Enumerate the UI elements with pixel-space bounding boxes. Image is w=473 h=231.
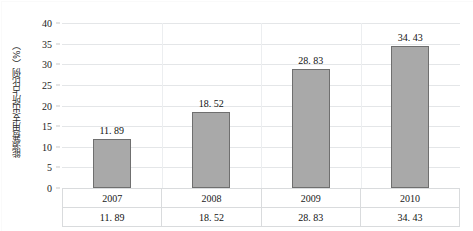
category-separator bbox=[261, 23, 262, 188]
table-cell: 28. 83 bbox=[261, 208, 360, 227]
y-axis-tick-label: 30 bbox=[42, 59, 52, 70]
table-cell: 2009 bbox=[261, 189, 360, 208]
category-separator bbox=[361, 23, 362, 188]
table-row-values: 11. 8918. 5228. 8334. 43 bbox=[63, 208, 460, 227]
y-axis-tick-mark bbox=[56, 126, 60, 127]
table-cell: 2007 bbox=[63, 189, 162, 208]
y-axis-tick-mark bbox=[56, 188, 60, 189]
table-cell: 34. 43 bbox=[360, 208, 459, 227]
bar-value-label: 28. 83 bbox=[298, 55, 323, 66]
table-cell: 2010 bbox=[360, 189, 459, 208]
plot-area: 11. 8918. 5228. 8334. 43 bbox=[62, 23, 460, 188]
bar-2007[interactable] bbox=[93, 139, 131, 188]
y-axis-tick-labels: 0510152025303540 bbox=[26, 23, 56, 188]
category-separator bbox=[162, 23, 163, 188]
table-cell: 2008 bbox=[162, 189, 261, 208]
y-axis-tick-label: 35 bbox=[42, 38, 52, 49]
table-cell: 18. 52 bbox=[162, 208, 261, 227]
y-axis-tick-mark bbox=[56, 167, 60, 168]
y-axis-tick-mark bbox=[56, 105, 60, 106]
bar-value-label: 18. 52 bbox=[199, 98, 224, 109]
y-axis-tick-mark bbox=[56, 23, 60, 24]
y-axis-tick-mark bbox=[56, 43, 60, 44]
y-axis-tick-label: 20 bbox=[42, 100, 52, 111]
y-axis-tick-mark bbox=[56, 84, 60, 85]
y-axis-tick-label: 15 bbox=[42, 121, 52, 132]
bar-value-label: 34. 43 bbox=[398, 32, 423, 43]
bar-chart-figure: 能源费用支出所占比例（%） 0510152025303540 11. 8918.… bbox=[0, 0, 473, 231]
bar-2010[interactable] bbox=[391, 46, 429, 188]
bar-2009[interactable] bbox=[292, 69, 330, 188]
data-table: 200720082009201011. 8918. 5228. 8334. 43 bbox=[62, 188, 460, 227]
bar-value-label: 11. 89 bbox=[99, 125, 124, 136]
y-axis-tick-label: 10 bbox=[42, 141, 52, 152]
y-axis-title: 能源费用支出所占比例（%） bbox=[8, 14, 26, 186]
data-table-body: 200720082009201011. 8918. 5228. 8334. 43 bbox=[63, 189, 460, 227]
y-axis-tick-label: 40 bbox=[42, 18, 52, 29]
y-axis-tick-mark bbox=[56, 146, 60, 147]
y-axis-tick-label: 5 bbox=[47, 162, 52, 173]
y-axis-tick-label: 0 bbox=[47, 183, 52, 194]
table-row-years: 2007200820092010 bbox=[63, 189, 460, 208]
table-cell: 11. 89 bbox=[63, 208, 162, 227]
y-axis-tick-mark bbox=[56, 64, 60, 65]
y-axis-tick-label: 25 bbox=[42, 79, 52, 90]
bar-2008[interactable] bbox=[192, 112, 230, 188]
